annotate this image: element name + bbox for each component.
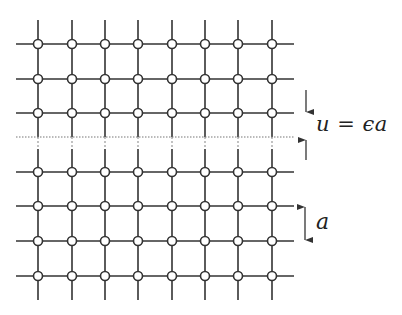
lattice-node [134,109,143,118]
lattice-node [268,272,277,281]
lattice-node [101,75,110,84]
lattice-node [168,272,177,281]
lattice-node [68,40,77,49]
lattice-node [201,168,210,177]
lattice-node [234,168,243,177]
lattice-node [234,237,243,246]
lattice-node [234,109,243,118]
lattice-node [268,168,277,177]
lattice-node [68,237,77,246]
lattice-node [34,40,43,49]
lattice-node [268,109,277,118]
lattice-node [34,237,43,246]
vertical-lattice-lines [38,20,272,300]
lattice-node [34,109,43,118]
lattice-spacing-label: a [316,209,329,234]
lattice-node [168,202,177,211]
lattice-node [201,237,210,246]
lattice-node [268,75,277,84]
lattice-node [234,202,243,211]
lattice-node [101,168,110,177]
lattice-node [68,109,77,118]
lattice-nodes [34,40,277,281]
lattice-node [134,202,143,211]
lattice-node [34,272,43,281]
lattice-node [201,272,210,281]
lattice-diagram [0,0,402,315]
lattice-node [134,272,143,281]
lattice-node [101,237,110,246]
lattice-node [101,202,110,211]
lattice-node [168,168,177,177]
dimension-arrows [305,90,306,240]
lattice-node [134,168,143,177]
lattice-node [101,272,110,281]
horizontal-lattice-lines [16,44,294,276]
lattice-node [201,75,210,84]
lattice-node [101,40,110,49]
lattice-node [201,40,210,49]
lattice-node [268,237,277,246]
lattice-node [201,202,210,211]
lattice-node [268,202,277,211]
lattice-node [168,75,177,84]
lattice-node [34,168,43,177]
lattice-node [168,109,177,118]
lattice-node [68,168,77,177]
lattice-node [234,75,243,84]
lattice-node [201,109,210,118]
strain-label: u = ϵa [316,112,388,136]
interface-gap-segments [38,137,272,149]
lattice-node [68,272,77,281]
lattice-node [68,75,77,84]
lattice-node [168,237,177,246]
lattice-node [34,202,43,211]
lattice-node [101,109,110,118]
lattice-node [134,237,143,246]
lattice-node [34,75,43,84]
lattice-node [234,40,243,49]
lattice-node [234,272,243,281]
lattice-node [168,40,177,49]
lattice-node [134,40,143,49]
lattice-node [68,202,77,211]
lattice-node [268,40,277,49]
lattice-node [134,75,143,84]
